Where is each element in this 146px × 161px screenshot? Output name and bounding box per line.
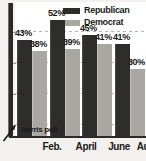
x-axis-labels: Feb. April June Aug. [15, 141, 146, 157]
bar-republican-feb [17, 40, 32, 136]
bar-value-republican-april: 52% [48, 9, 65, 18]
bar-value-democrat-aug: 30% [128, 58, 145, 67]
x-axis-label-june: June [103, 141, 135, 153]
bar-democrat-aug [130, 69, 145, 136]
bar-democrat-april [65, 49, 80, 136]
x-axis-label-feb: Feb. [36, 141, 68, 153]
bar-chart-figure: Republican Democrat Harris poll Feb. Apr… [0, 0, 146, 161]
legend-label-republican: Republican [84, 6, 130, 15]
x-axis-label-april: April [69, 141, 103, 153]
legend-swatch-democrat [63, 20, 80, 26]
bar-value-democrat-april: 39% [63, 38, 80, 47]
bar-republican-june [82, 35, 97, 136]
y-axis-spine [9, 3, 13, 137]
bar-value-democrat-june: 41% [95, 33, 112, 42]
bar-value-republican-feb: 43% [15, 29, 32, 38]
x-axis-line [9, 136, 146, 138]
source-arrow-icon [2, 124, 18, 142]
x-axis-label-aug: Aug. [133, 141, 146, 153]
legend-swatch-republican [63, 8, 80, 14]
source-annotation: Harris poll [21, 125, 57, 134]
bar-democrat-june [97, 44, 112, 136]
y-axis-tick [13, 94, 16, 95]
bar-value-republican-aug: 41% [113, 33, 130, 42]
legend-item-republican: Republican [63, 5, 130, 16]
bar-democrat-feb [32, 51, 47, 136]
y-axis-tick [13, 63, 16, 64]
bar-value-democrat-feb: 38% [30, 40, 47, 49]
